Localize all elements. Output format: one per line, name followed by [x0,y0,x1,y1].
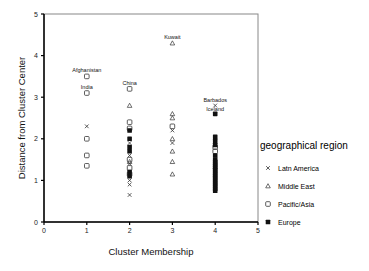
data-point-square-filled [127,128,132,133]
point-label: Afghanistan [72,67,101,73]
y-axis-ticks: 012345 [34,11,44,226]
legend-item: Middle East [264,177,369,195]
x-axis-title: Cluster Membership [109,246,194,257]
legend-marker-x-icon [264,164,272,172]
point-label: Iceland [206,106,224,112]
data-point-square-filled [127,170,132,175]
legend-item: Pacific/Asia [264,195,369,213]
plot-area [44,14,258,222]
data-point-square-filled [127,145,132,150]
legend-label: Pacific/Asia [278,201,314,208]
y-tick-label: 1 [34,177,38,184]
y-tick-label: 0 [34,219,38,226]
legend-marker [266,220,271,225]
legend-item: Europe [264,213,369,231]
data-point-square-filled [127,174,132,179]
legend-label: Europe [278,219,301,226]
legend-label: Middle East [278,183,315,190]
point-label: Kuwait [164,34,181,40]
x-tick-label: 3 [170,227,174,234]
point-label: China [122,80,137,86]
x-tick-label: 2 [128,227,132,234]
data-point-square-filled [213,153,218,158]
data-point-square-filled [213,139,218,144]
legend: geographical region Latn AmericaMiddle E… [258,140,369,231]
legend-marker [266,166,270,170]
x-tick-label: 1 [85,227,89,234]
point-label: Barbados [203,97,227,103]
legend-marker-square-filled-icon [264,218,272,226]
y-tick-label: 4 [34,52,38,59]
legend-marker-triangle-open-icon [264,182,272,190]
data-point-square-filled [213,189,218,194]
legend-marker-circle-open-icon [264,200,272,208]
data-point-square-filled [127,149,132,154]
legend-marker [266,202,271,207]
y-tick-label: 5 [34,11,38,18]
legend-label: Latn America [278,165,319,172]
x-tick-label: 4 [213,227,217,234]
point-label: India [81,84,94,90]
data-point-square-filled [127,137,132,142]
legend-marker [266,184,271,188]
plot-frame [44,14,258,222]
legend-item: Latn America [264,159,369,177]
x-tick-label: 0 [42,227,46,234]
data-point-square-filled [213,143,218,148]
legend-title: geographical region [260,140,369,151]
y-axis-title: Distance from Cluster Center [16,57,27,179]
data-point-square-filled [213,134,218,139]
x-axis-ticks: 012345 [42,222,260,234]
y-tick-label: 2 [34,135,38,142]
data-point-square-filled [213,112,218,117]
y-tick-label: 3 [34,94,38,101]
